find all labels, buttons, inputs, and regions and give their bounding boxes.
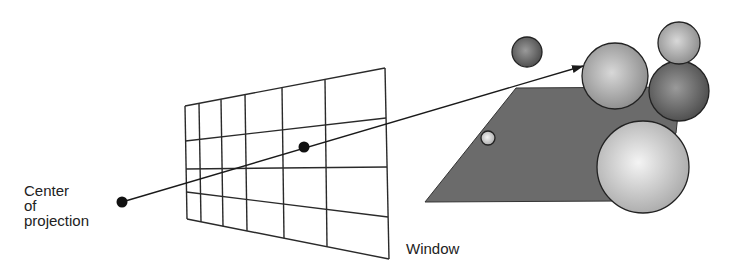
grid-line-vertical bbox=[245, 95, 247, 231]
grid-line-vertical bbox=[385, 68, 389, 259]
grid-line-vertical bbox=[199, 103, 201, 221]
sphere-tiny-on-plane bbox=[481, 131, 495, 145]
center-of-projection-label: Center of projection bbox=[24, 183, 114, 228]
window-intersection-point bbox=[299, 142, 310, 153]
grid-line-vertical bbox=[185, 106, 187, 219]
label-line-3: projection bbox=[24, 213, 114, 228]
sphere-top-right bbox=[658, 22, 700, 64]
grid-line-horizontal bbox=[185, 68, 385, 106]
sphere-small-floating bbox=[512, 37, 542, 67]
label-line-1: Center bbox=[24, 183, 114, 198]
sphere-dark-back bbox=[649, 61, 709, 121]
sphere-large-front bbox=[597, 121, 689, 213]
label-line-2: of bbox=[24, 198, 114, 213]
grid-line-vertical bbox=[325, 79, 327, 246]
perspective-projection-diagram bbox=[0, 0, 734, 277]
window-label: Window bbox=[406, 241, 459, 256]
grid-line-vertical bbox=[282, 88, 284, 239]
scene-objects bbox=[425, 22, 709, 213]
window-grid bbox=[185, 68, 389, 259]
grid-line-vertical bbox=[221, 99, 223, 226]
center-of-projection-point bbox=[117, 197, 128, 208]
grid-line-horizontal bbox=[186, 167, 387, 169]
grid-line-horizontal bbox=[187, 219, 389, 259]
grid-line-horizontal bbox=[187, 192, 389, 217]
sphere-ray-target bbox=[582, 43, 648, 109]
grid-line-horizontal bbox=[186, 118, 387, 141]
